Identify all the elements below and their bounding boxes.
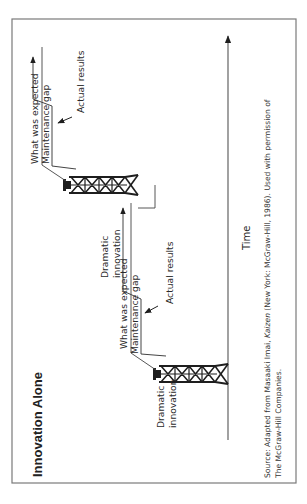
rotated-figure: Innovation Alone Time What was expected … [0,0,307,504]
innovation-label-line2: innovation [111,229,122,278]
step-2: What was expected Maintenance gap Actual… [29,47,155,278]
gap-label: Maintenance gap [40,84,51,164]
source-line-2: The McGraw-Hill Companies. [274,369,283,479]
actual-results-pointer [58,117,72,123]
time-axis-label: Time [241,226,252,251]
innovation-alone-diagram: Innovation Alone Time What was expected … [0,0,307,504]
actual-label: Actual results [75,50,86,113]
figure-frame [12,19,296,483]
innovation-label-line1: Dramatic [155,386,166,428]
expected-label: What was expected [29,74,40,164]
actual-results-pointer [145,306,158,313]
pylon-icon [153,364,228,384]
innovation-label-line2: innovation [167,379,178,428]
pylon-icon [63,175,138,195]
source-line-1: Source: Adapted from Masaaki Imai, Kaize… [263,99,272,478]
actual-label: Actual results [164,241,175,304]
figure-title: Innovation Alone [30,372,45,477]
gap-label: Maintenance gap [129,274,140,354]
innovation-label-line1: Dramatic [99,236,110,278]
step-1: What was expected Maintenance gap Actual… [118,203,228,428]
